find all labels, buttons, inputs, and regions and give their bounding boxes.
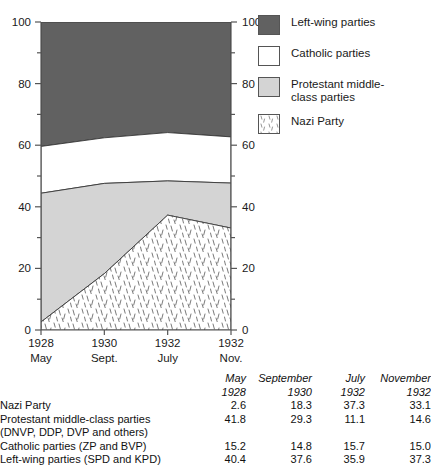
- legend-label: Left-wing parties: [291, 14, 375, 29]
- cell-value: 15.2: [193, 440, 246, 454]
- y-tick-label-right: 80: [242, 78, 255, 90]
- table-row: Nazi Party2.618.337.333.1: [0, 399, 431, 413]
- table-row: Protestant middle-class parties41.829.31…: [0, 413, 431, 427]
- stacked-area-chart: 002020404060608080100100 1928May1930Sept…: [0, 0, 405, 370]
- y-tick-label-left: 80: [18, 78, 31, 90]
- y-tick-label-left: 20: [18, 262, 31, 274]
- y-tick-label-left: 40: [18, 201, 31, 213]
- cell-value: 2.6: [193, 399, 246, 413]
- row-sublabel: (DNVP, DDP, DVP and others): [0, 426, 193, 440]
- series-areas: [41, 22, 231, 330]
- cell-value: 37.3: [365, 453, 431, 467]
- cell-empty: [246, 426, 312, 440]
- legend-label: Protestant middle- class parties: [291, 76, 384, 103]
- legend-label: Catholic parties: [291, 45, 370, 60]
- legend-swatch-light-gray: [258, 77, 280, 97]
- legend-swatch-white: [258, 46, 280, 66]
- party-vote-share-table: May September July November 1928 1930 19…: [0, 372, 431, 467]
- y-tick-label-left: 0: [25, 324, 31, 336]
- cell-value: 37.6: [246, 453, 312, 467]
- table-header-row-year: 1928 1930 1932 1932: [0, 386, 431, 400]
- header-blank-2: [0, 386, 193, 400]
- cell-empty: [193, 426, 246, 440]
- cell-value: 14.8: [246, 440, 312, 454]
- cell-value: 11.1: [312, 413, 365, 427]
- y-tick-label-left: 60: [18, 139, 31, 151]
- legend-item[interactable]: Left-wing parties: [258, 14, 403, 35]
- cell-value: 15.7: [312, 440, 365, 454]
- y-tick-label-right: 60: [242, 139, 255, 151]
- header-year-2: 1930: [246, 386, 312, 400]
- row-label: Protestant middle-class parties: [0, 413, 193, 427]
- cell-value: 14.6: [365, 413, 431, 427]
- row-label: Nazi Party: [0, 399, 193, 413]
- x-tick-label-month: May: [30, 352, 52, 364]
- table-body: Nazi Party2.618.337.333.1Protestant midd…: [0, 399, 431, 467]
- x-tick-label-year: 1932: [218, 337, 244, 349]
- header-month-1: May: [193, 372, 246, 386]
- legend-label: Nazi Party: [291, 113, 344, 128]
- cell-value: 33.1: [365, 399, 431, 413]
- legend-swatch-dark-gray: [258, 15, 280, 35]
- cell-value: 15.0: [365, 440, 431, 454]
- y-tick-label-left: 100: [12, 16, 31, 28]
- header-year-3: 1932: [312, 386, 365, 400]
- cell-value: 35.9: [312, 453, 365, 467]
- legend-item[interactable]: Protestant middle- class parties: [258, 76, 403, 103]
- x-tick-label-year: 1928: [28, 337, 54, 349]
- cell-value: 40.4: [193, 453, 246, 467]
- header-blank: [0, 372, 193, 386]
- x-axis-category-labels: 1928May1930Sept.1932July1932Nov.: [28, 337, 244, 364]
- legend-item[interactable]: Nazi Party: [258, 113, 403, 134]
- cell-value: 37.3: [312, 399, 365, 413]
- row-label: Left-wing parties (SPD and KPD): [0, 453, 193, 467]
- y-tick-label-right: 40: [242, 201, 255, 213]
- x-tick-label-month: Sept.: [91, 352, 118, 364]
- cell-value: 41.8: [193, 413, 246, 427]
- table-head: May September July November 1928 1930 19…: [0, 372, 431, 399]
- x-tick-label-month: July: [157, 352, 178, 364]
- cell-value: 18.3: [246, 399, 312, 413]
- x-tick-label-month: Nov.: [220, 352, 243, 364]
- x-tick-label-year: 1932: [155, 337, 181, 349]
- table-header-row-month: May September July November: [0, 372, 431, 386]
- header-month-3: July: [312, 372, 365, 386]
- cell-empty: [312, 426, 365, 440]
- hatch-icon: [259, 115, 279, 133]
- table-row: Catholic parties (ZP and BVP)15.214.815.…: [0, 440, 431, 454]
- data-table: May September July November 1928 1930 19…: [0, 372, 405, 467]
- chart-legend: Left-wing partiesCatholic partiesProtest…: [258, 14, 403, 144]
- x-tick-label-year: 1930: [92, 337, 118, 349]
- header-month-4: November: [365, 372, 431, 386]
- header-year-4: 1932: [365, 386, 431, 400]
- table-row: Left-wing parties (SPD and KPD)40.437.63…: [0, 453, 431, 467]
- header-year-1: 1928: [193, 386, 246, 400]
- cell-empty: [365, 426, 431, 440]
- y-tick-label-right: 0: [242, 324, 248, 336]
- legend-swatch-hatched: [258, 114, 280, 134]
- y-tick-label-right: 20: [242, 262, 255, 274]
- table-row-continuation: (DNVP, DDP, DVP and others): [0, 426, 431, 440]
- area-left-wing-parties: [41, 22, 231, 146]
- row-label: Catholic parties (ZP and BVP): [0, 440, 193, 454]
- header-month-2: September: [246, 372, 312, 386]
- legend-item[interactable]: Catholic parties: [258, 45, 403, 66]
- cell-value: 29.3: [246, 413, 312, 427]
